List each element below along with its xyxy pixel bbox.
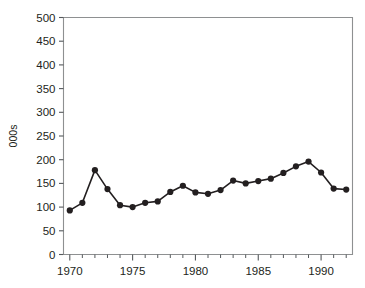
data-point-marker (255, 178, 261, 184)
series-line (70, 162, 346, 211)
data-point-marker (142, 200, 148, 206)
y-tick-label: 500 (36, 12, 55, 24)
data-point-marker (180, 183, 186, 189)
y-tick-label: 450 (36, 35, 55, 47)
chart-canvas: 0501001502002503003504004505001970197519… (0, 0, 365, 288)
data-point-marker (217, 187, 223, 193)
y-tick-label: 150 (36, 177, 55, 189)
data-point-marker (130, 204, 136, 210)
data-point-marker (331, 186, 337, 192)
y-tick-label: 200 (36, 154, 55, 166)
data-point-marker (167, 189, 173, 195)
plot-frame (64, 18, 353, 255)
y-axis-title: 000s (7, 125, 19, 148)
line-chart: 0501001502002503003504004505001970197519… (0, 0, 365, 288)
data-point-marker (343, 186, 349, 192)
data-point-marker (318, 169, 324, 175)
data-point-marker (117, 202, 123, 208)
data-point-marker (280, 170, 286, 176)
data-point-marker (243, 180, 249, 186)
y-tick-label: 400 (36, 59, 55, 71)
data-point-marker (293, 163, 299, 169)
data-point-marker (205, 191, 211, 197)
x-tick-label: 1990 (308, 265, 334, 277)
data-point-marker (92, 167, 98, 173)
data-point-marker (104, 186, 110, 192)
data-point-marker (67, 207, 73, 213)
x-tick-label: 1980 (183, 265, 209, 277)
x-tick-label: 1970 (57, 265, 83, 277)
data-point-marker (268, 176, 274, 182)
y-tick-label: 250 (36, 130, 55, 142)
y-tick-label: 50 (43, 225, 56, 237)
y-tick-label: 350 (36, 83, 55, 95)
data-point-marker (305, 159, 311, 165)
data-point-marker (79, 200, 85, 206)
x-tick-label: 1985 (245, 265, 271, 277)
x-tick-label: 1975 (120, 265, 146, 277)
data-point-marker (155, 198, 161, 204)
data-point-marker (192, 189, 198, 195)
data-point-marker (230, 177, 236, 183)
y-tick-label: 0 (49, 249, 55, 261)
y-tick-label: 300 (36, 106, 55, 118)
y-tick-label: 100 (36, 201, 55, 213)
